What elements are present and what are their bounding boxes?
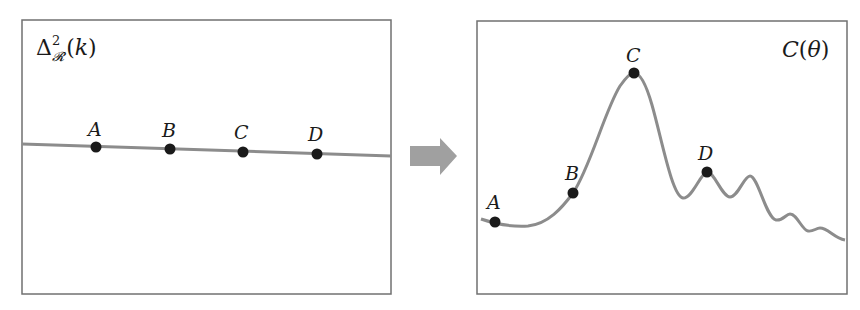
point-d — [312, 149, 323, 160]
point-b — [568, 188, 579, 199]
point-c — [629, 68, 640, 79]
right-arrow-icon — [410, 138, 457, 175]
right-panel-title: C(θ) — [782, 37, 829, 62]
left-panel: Δ2𝓡(k) A B C D — [22, 20, 391, 294]
point-c — [238, 147, 249, 158]
diagram-canvas: Δ2𝓡(k) A B C D C(θ) A B C — [0, 0, 860, 310]
point-b — [165, 144, 176, 155]
left-panel-title: Δ2𝓡(k) — [36, 33, 97, 64]
point-a — [91, 142, 102, 153]
left-panel-frame — [22, 20, 391, 294]
point-b-label: B — [564, 162, 579, 184]
correlation-curve — [481, 73, 845, 240]
power-spectrum-line — [22, 144, 391, 156]
point-b-label: B — [161, 119, 176, 141]
point-a — [490, 217, 501, 228]
right-panel: C(θ) A B C D — [477, 21, 847, 294]
point-d — [702, 167, 713, 178]
point-a-label: A — [485, 191, 501, 213]
point-a-label: A — [86, 118, 102, 140]
point-c-label: C — [234, 121, 249, 143]
point-c-label: C — [626, 44, 641, 66]
point-d-label: D — [307, 123, 323, 145]
point-d-label: D — [697, 142, 713, 164]
